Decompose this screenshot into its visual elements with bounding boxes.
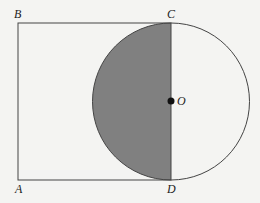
label-c: C — [167, 7, 176, 21]
shaded-semicircle — [93, 23, 171, 180]
label-o: O — [177, 94, 186, 108]
label-d: D — [166, 182, 176, 196]
label-b: B — [14, 7, 22, 21]
center-point-o — [168, 98, 175, 105]
geometry-diagram: B C O A D — [0, 0, 260, 203]
label-a: A — [14, 182, 23, 196]
